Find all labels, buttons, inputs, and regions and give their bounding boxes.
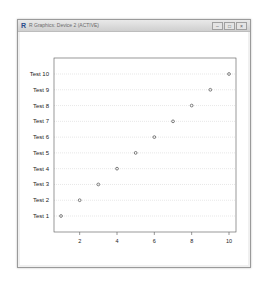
x-tick-label: 10 [226,238,232,244]
y-category-label: Test 5 [33,150,50,156]
x-tick-label: 4 [115,238,118,244]
y-category-label: Test 1 [33,213,50,219]
y-category-label: Test 7 [33,118,50,124]
y-category-label: Test 6 [33,134,50,140]
y-category-label: Test 9 [33,87,50,93]
y-category-label: Test 4 [33,166,50,172]
y-category-label: Test 3 [33,181,50,187]
plot-box [54,58,236,232]
y-category-label: Test 10 [30,71,50,77]
y-category-label: Test 2 [33,197,50,203]
x-tick-label: 6 [153,238,156,244]
y-category-label: Test 8 [33,103,50,109]
x-tick-label: 8 [190,238,193,244]
dotchart: Test 1Test 2Test 3Test 4Test 5Test 6Test… [0,0,265,286]
x-tick-label: 2 [78,238,81,244]
